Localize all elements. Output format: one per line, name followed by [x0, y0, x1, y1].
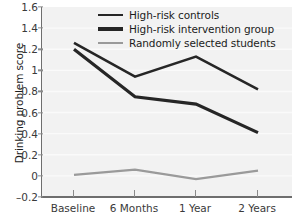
y-tick-mark	[38, 196, 43, 197]
series-line-3	[74, 170, 258, 180]
x-tick-label: Baseline	[51, 202, 96, 214]
legend-item: Randomly selected students	[98, 37, 276, 49]
y-tick-label: 0	[0, 170, 38, 182]
y-tick-mark	[38, 91, 43, 92]
legend-label: High-risk controls	[129, 9, 219, 21]
y-tick-mark	[38, 112, 43, 113]
y-tick-mark	[38, 49, 43, 50]
y-tick-mark	[38, 70, 43, 71]
chart-legend: High-risk controlsHigh-risk intervention…	[98, 9, 276, 49]
chart-figure: Drinking problem score 1.61.41.210.80.60…	[0, 0, 292, 223]
x-axis-line	[41, 196, 292, 198]
x-tick-mark	[195, 190, 196, 197]
legend-item: High-risk controls	[98, 9, 276, 21]
x-tick-label: 6 Months	[110, 202, 158, 214]
y-tick-label: 1.4	[0, 22, 38, 34]
y-tick-label: 0.2	[0, 149, 38, 161]
x-tick-label: 1 Year	[179, 202, 211, 214]
legend-swatch-icon	[98, 14, 123, 17]
y-tick-mark	[38, 6, 43, 7]
y-tick-label: 1.6	[0, 1, 38, 13]
legend-item: High-risk intervention group	[98, 23, 276, 35]
y-tick-mark	[38, 154, 43, 155]
y-axis-tick-labels: 1.61.41.210.80.60.40.20–0.2	[0, 0, 38, 223]
y-tick-label: 0.6	[0, 107, 38, 119]
y-tick-label: 1.2	[0, 43, 38, 55]
legend-label: Randomly selected students	[129, 37, 276, 49]
legend-swatch-icon	[98, 42, 123, 44]
legend-label: High-risk intervention group	[129, 23, 274, 35]
x-tick-mark	[134, 190, 135, 197]
x-tick-label: 2 Years	[238, 202, 276, 214]
y-tick-label: 0.8	[0, 85, 38, 97]
y-tick-label: 1	[0, 64, 38, 76]
y-tick-mark	[38, 133, 43, 134]
y-tick-label: –0.2	[0, 191, 38, 203]
x-tick-mark	[257, 190, 258, 197]
x-tick-mark	[73, 190, 74, 197]
y-tick-label: 0.4	[0, 128, 38, 140]
y-tick-mark	[38, 175, 43, 176]
legend-swatch-icon	[98, 27, 123, 30]
y-tick-mark	[38, 27, 43, 28]
